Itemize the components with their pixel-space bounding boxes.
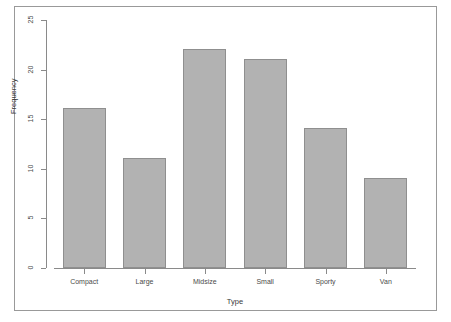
y-axis-tick — [41, 119, 46, 120]
bar-sporty[interactable] — [304, 128, 347, 268]
bar-van[interactable] — [364, 178, 407, 268]
x-axis-tick — [326, 269, 327, 274]
chart-frame: 0510152025 Frequency CompactLargeMidsize… — [14, 6, 437, 311]
bar-compact[interactable] — [63, 108, 106, 268]
y-axis-tick-label: 25 — [27, 12, 34, 28]
bar-midsize[interactable] — [183, 49, 226, 268]
x-axis-line — [54, 268, 416, 269]
x-axis-tick — [84, 269, 85, 274]
y-axis-line — [46, 20, 47, 268]
plot-area: 0510152025 Frequency CompactLargeMidsize… — [46, 14, 424, 269]
x-axis-tick — [145, 269, 146, 274]
y-axis-tick-label: 20 — [27, 61, 34, 77]
y-axis-title: Frequency — [9, 79, 18, 114]
y-axis-tick-label: 15 — [27, 111, 34, 127]
y-axis-tick — [41, 268, 46, 269]
y-axis-tick — [41, 20, 46, 21]
y-axis-tick — [41, 70, 46, 71]
x-axis-tick — [205, 269, 206, 274]
x-axis-tick — [265, 269, 266, 274]
y-axis-tick — [41, 218, 46, 219]
y-axis-tick-label: 0 — [27, 260, 34, 276]
x-axis-tick — [386, 269, 387, 274]
bar-large[interactable] — [123, 158, 166, 268]
bar-small[interactable] — [244, 59, 287, 268]
y-axis-tick-label: 5 — [27, 210, 34, 226]
x-axis-tick-label: Van — [346, 278, 426, 285]
y-axis-tick-label: 10 — [27, 160, 34, 176]
y-axis-tick — [41, 169, 46, 170]
x-axis-title: Type — [46, 297, 424, 306]
